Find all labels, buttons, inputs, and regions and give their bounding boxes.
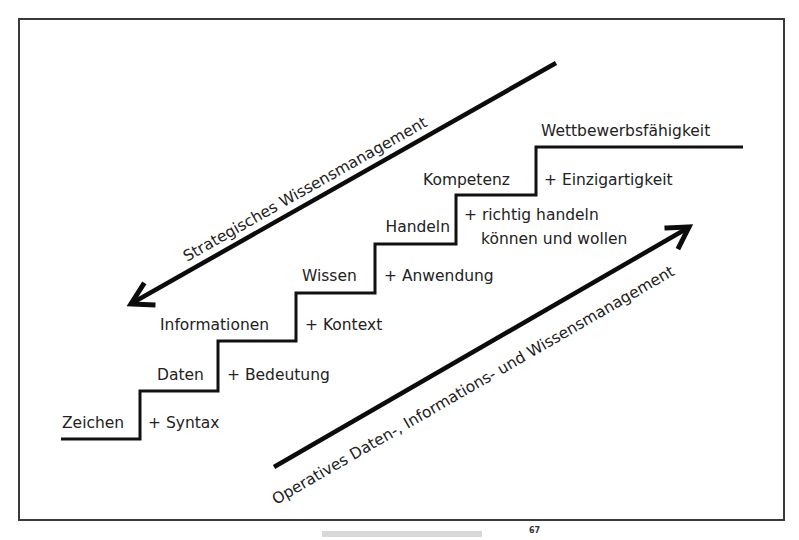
step-addition-syntax: + Syntax bbox=[148, 414, 220, 432]
step-level-label-wettbewerbsfaehigkeit: Wettbewerbsfähigkeit bbox=[541, 122, 710, 140]
step-addition-kontext: + Kontext bbox=[305, 316, 382, 334]
step-addition-koennen-und-wollen: können und wollen bbox=[481, 230, 627, 248]
step-level-label-wissen: Wissen bbox=[302, 267, 357, 285]
operative-arrow-label: Operatives Daten-, Informations- und Wis… bbox=[269, 262, 678, 508]
operative-arrow-shaft bbox=[274, 229, 686, 467]
step-level-label-kompetenz: Kompetenz bbox=[423, 171, 510, 189]
step-addition-einzigartigkeit: + Einzigartigkeit bbox=[544, 171, 673, 189]
step-level-label-handeln: Handeln bbox=[386, 218, 450, 236]
step-addition-richtig-handeln: + richtig handeln bbox=[464, 206, 599, 224]
step-addition-bedeutung: + Bedeutung bbox=[227, 366, 330, 384]
step-addition-anwendung: + Anwendung bbox=[384, 267, 494, 285]
operative-arrow bbox=[274, 227, 689, 467]
caption-placeholder bbox=[322, 531, 482, 537]
step-level-label-informationen: Informationen bbox=[160, 316, 269, 334]
step-level-label-zeichen: Zeichen bbox=[62, 414, 124, 432]
caption-footnote-marker: 67 bbox=[529, 526, 540, 535]
knowledge-staircase-diagram: Zeichen Daten Informationen Wissen Hande… bbox=[0, 0, 799, 540]
step-level-label-daten: Daten bbox=[157, 366, 204, 384]
